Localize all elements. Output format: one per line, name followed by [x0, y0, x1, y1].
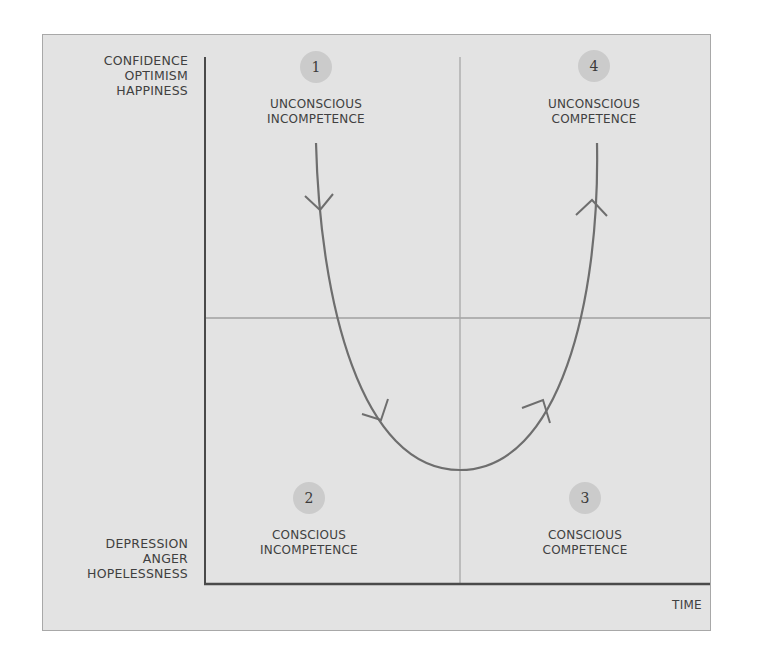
quadrant-number-badge: 4 — [578, 50, 610, 82]
y-axis-top-label: CONFIDENCE OPTIMISM HAPPINESS — [60, 53, 188, 98]
y-bottom-label-line: ANGER — [50, 551, 188, 566]
quadrant-number-badge: 2 — [293, 482, 325, 514]
quadrant-number-badge: 3 — [569, 482, 601, 514]
y-top-label-line: OPTIMISM — [60, 68, 188, 83]
quadrant-label-conscious-competence: CONSCIOUS COMPETENCE — [510, 528, 660, 558]
quadrant-number-badge: 1 — [300, 51, 332, 83]
quadrant-label-line: INCOMPETENCE — [234, 543, 384, 558]
quadrant-label-line: UNCONSCIOUS — [519, 97, 669, 112]
learning-curve — [316, 143, 597, 470]
quadrant-label-line: INCOMPETENCE — [241, 112, 391, 127]
quadrant-label-line: COMPETENCE — [510, 543, 660, 558]
arrow-up-icon — [576, 200, 607, 216]
y-top-label-line: CONFIDENCE — [60, 53, 188, 68]
quadrant-label-line: CONSCIOUS — [234, 528, 384, 543]
y-bottom-label-line: DEPRESSION — [50, 536, 188, 551]
arrow-up-icon — [522, 400, 550, 423]
y-axis-bottom-label: DEPRESSION ANGER HOPELESSNESS — [50, 536, 188, 581]
quadrant-label-unconscious-competence: UNCONSCIOUS COMPETENCE — [519, 97, 669, 127]
x-axis-label: TIME — [672, 598, 702, 612]
quadrant-label-line: UNCONSCIOUS — [241, 97, 391, 112]
y-top-label-line: HAPPINESS — [60, 83, 188, 98]
quadrant-label-line: CONSCIOUS — [510, 528, 660, 543]
quadrant-label-conscious-incompetence: CONSCIOUS INCOMPETENCE — [234, 528, 384, 558]
quadrant-label-line: COMPETENCE — [519, 112, 669, 127]
arrow-down-icon — [362, 399, 388, 420]
quadrant-label-unconscious-incompetence: UNCONSCIOUS INCOMPETENCE — [241, 97, 391, 127]
y-bottom-label-line: HOPELESSNESS — [50, 566, 188, 581]
